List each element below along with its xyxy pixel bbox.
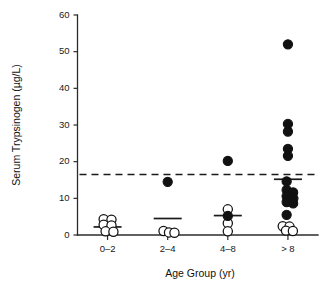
- series-3: [223, 156, 232, 236]
- series-4: [278, 40, 298, 236]
- data-point-filled: [223, 211, 232, 220]
- y-axis-title: Serum Trypsinogen (µg/L): [10, 64, 22, 186]
- data-points-group: [99, 40, 298, 238]
- data-point-open: [223, 227, 232, 236]
- data-point-filled: [283, 151, 292, 160]
- y-tick-label: 50: [59, 45, 70, 56]
- data-point-filled: [163, 177, 172, 186]
- dot-plot-figure: 0102030405060 0–22–44–8> 8 Age Group (yr…: [0, 0, 330, 286]
- data-point-filled: [283, 40, 292, 49]
- data-point-filled: [282, 177, 291, 186]
- y-tick-label: 60: [59, 9, 70, 20]
- series-2: [159, 177, 179, 237]
- data-point-open: [170, 228, 179, 237]
- data-point-filled: [282, 210, 291, 219]
- y-tick-label: 40: [59, 82, 70, 93]
- y-tick-label: 20: [59, 155, 70, 166]
- x-tick-label: 4–8: [220, 243, 236, 254]
- series-1: [99, 215, 118, 237]
- x-axis-title: Age Group (yr): [165, 267, 234, 279]
- x-tick-label: > 8: [281, 243, 294, 254]
- y-tick-label: 0: [64, 229, 69, 240]
- y-tick-label: 10: [59, 192, 70, 203]
- data-point-filled: [223, 156, 232, 165]
- serum-trypsinogen-scatter-plot: 0102030405060 0–22–44–8> 8 Age Group (yr…: [0, 0, 330, 286]
- x-tick-label: 0–2: [100, 243, 116, 254]
- data-point-open: [288, 226, 297, 235]
- data-point-filled: [289, 199, 298, 208]
- x-tick-label: 2–4: [160, 243, 176, 254]
- data-point-open: [109, 227, 118, 236]
- y-axis-ticks: 0102030405060: [59, 9, 78, 240]
- x-axis-ticks: 0–22–44–8> 8: [100, 235, 295, 254]
- data-point-filled: [283, 127, 292, 136]
- y-tick-label: 30: [59, 119, 70, 130]
- group-mean-lines: [94, 179, 302, 227]
